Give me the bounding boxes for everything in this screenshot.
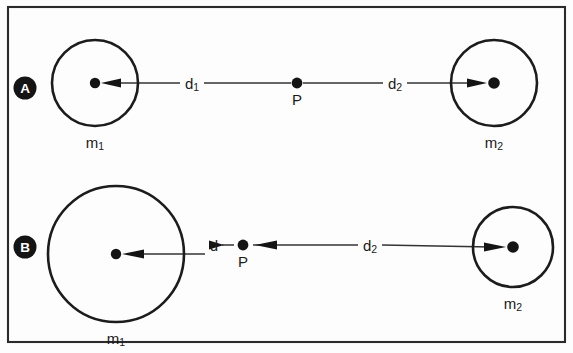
diagram-border-frame	[8, 7, 565, 342]
distance-label-d2: d2	[363, 237, 377, 256]
panel-a: A d1 d2 m1 m2 P	[14, 40, 538, 152]
mass-center-dot-m1	[90, 78, 100, 88]
force-arrow-toward-m2	[467, 78, 487, 87]
panel-label-b: B	[20, 240, 30, 255]
panel-a-badge: A	[14, 77, 37, 100]
force-arrow-toward-m2	[255, 240, 277, 249]
distance-line-d2-cont	[382, 245, 491, 247]
mass-center-dot-m2	[507, 241, 519, 253]
mass-label-m2: m2	[485, 134, 504, 153]
distance-label-d2: d2	[388, 75, 402, 94]
mass-label-m2: m2	[504, 295, 523, 314]
force-arrow-into-m2	[484, 242, 506, 251]
mass-label-m1: m1	[107, 330, 126, 349]
physics-diagram-figure: A d1 d2 m1 m2 P	[0, 0, 573, 353]
panel-b: B d d2 m1 m2 P	[14, 186, 554, 348]
panel-label-a: A	[20, 81, 30, 96]
force-arrow-toward-m1	[122, 249, 144, 258]
mass-center-dot-m1	[111, 249, 121, 259]
point-label-p: P	[238, 253, 248, 270]
point-label-p: P	[292, 91, 302, 108]
diagram-canvas: A d1 d2 m1 m2 P	[0, 0, 573, 353]
force-arrow-toward-m1	[101, 78, 121, 87]
mass-label-m1: m1	[86, 134, 105, 153]
distance-label-d1: d1	[185, 75, 199, 94]
mass-center-dot-m2	[488, 77, 500, 89]
panel-b-badge: B	[14, 236, 37, 259]
field-point-dot-p	[238, 240, 249, 251]
field-point-dot-p	[292, 78, 303, 89]
distance-label-d: d	[210, 237, 218, 254]
